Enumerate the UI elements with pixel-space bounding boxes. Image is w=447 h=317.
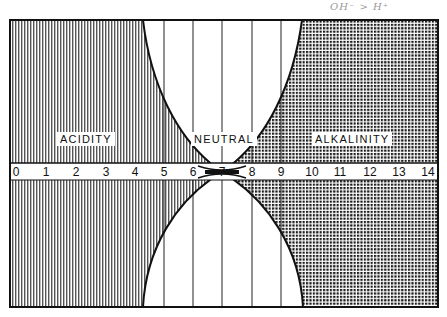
tick-4: 4 (125, 165, 145, 179)
tick-11: 11 (330, 165, 350, 179)
tick-8: 8 (242, 165, 262, 179)
tick-3: 3 (96, 165, 116, 179)
tick-2: 2 (66, 165, 86, 179)
neutral-label: NEUTRAL (191, 132, 257, 146)
alkalinity-region-bottom (222, 172, 438, 307)
tick-0: 0 (6, 165, 26, 179)
acidity-region-top (10, 20, 222, 172)
tick-9: 9 (271, 165, 291, 179)
tick-12: 12 (360, 165, 380, 179)
tick-14: 14 (418, 165, 438, 179)
ph-scale-diagram (0, 0, 447, 317)
acidity-label: ACIDITY (57, 132, 115, 146)
tick-7: 7 (212, 165, 232, 179)
acidity-region-bottom (10, 172, 222, 307)
tick-1: 1 (36, 165, 56, 179)
tick-13: 13 (389, 165, 409, 179)
tick-6: 6 (183, 165, 203, 179)
tick-10: 10 (302, 165, 322, 179)
alkalinity-label: ALKALINITY (312, 132, 392, 146)
alkalinity-region-top (222, 20, 438, 172)
tick-5: 5 (154, 165, 174, 179)
